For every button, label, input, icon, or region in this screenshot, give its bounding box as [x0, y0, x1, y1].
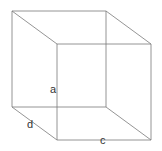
edge-depth-top-left — [12, 11, 57, 44]
edge-depth-top-right — [106, 11, 151, 44]
label-c: c — [100, 134, 106, 146]
label-a: a — [50, 83, 57, 95]
cube-diagram: a d c — [0, 0, 162, 151]
edge-depth-bottom-right — [106, 107, 151, 140]
edge-depth-bottom-left — [12, 107, 57, 140]
label-d: d — [27, 118, 33, 130]
